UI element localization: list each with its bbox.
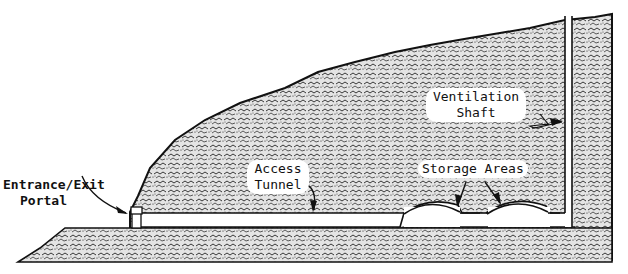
label-entrance-exit: Entrance/Exit [3, 177, 105, 193]
label-ventilation-shaft: Ventilation Shaft [426, 88, 526, 122]
label-portal: Portal [20, 193, 67, 209]
label-access-tunnel: Access Tunnel [247, 160, 309, 194]
label-ventilation: Ventilation [430, 89, 522, 105]
ventilation-shaft [565, 16, 572, 227]
label-shaft: Shaft [430, 105, 522, 121]
entrance-portal [131, 207, 142, 228]
label-storage-areas: Storage Areas [418, 160, 528, 178]
label-tunnel: Tunnel [251, 177, 305, 193]
facility-cross-section [0, 0, 628, 274]
ground-slab [18, 228, 612, 262]
label-access: Access [251, 161, 305, 177]
